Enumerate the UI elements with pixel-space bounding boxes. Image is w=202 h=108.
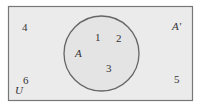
complement-label: A' <box>172 21 181 32</box>
element-3: 3 <box>106 63 112 74</box>
venn-diagram <box>0 0 202 108</box>
element-5: 5 <box>174 74 180 85</box>
element-6: 6 <box>23 75 29 86</box>
element-1: 1 <box>95 32 101 43</box>
element-4: 4 <box>22 22 28 33</box>
universal-set-label: U <box>15 85 23 96</box>
set-a-label: A <box>75 48 82 59</box>
element-2: 2 <box>116 33 122 44</box>
